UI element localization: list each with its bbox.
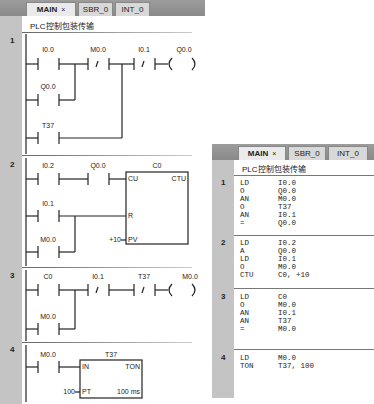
ladder-diagram: [0, 0, 210, 404]
contact-label: Q0.0: [40, 83, 55, 90]
stl-operands-4: M0.0 T37, 100: [278, 354, 314, 370]
pin-in: IN: [82, 363, 89, 370]
pv-value: +10: [109, 236, 121, 243]
contact-label: I0.1: [42, 200, 54, 207]
coil-label: M0.0: [182, 273, 198, 280]
network-separator: [234, 349, 374, 350]
network-number-2: 2: [221, 238, 225, 247]
stl-ops-1: LD O AN O AN =: [240, 179, 249, 227]
stl-operands-3: C0 M0.0 I0.1 T37 M0.0: [278, 293, 296, 333]
program-comment: PLC控制包装传输: [242, 163, 306, 174]
pin-pv: PV: [128, 236, 137, 243]
ladder-editor: MAIN× SBR_0 INT_0 PLC控制包装传输 1 2 3 4: [0, 0, 210, 404]
network-1-rungs: [26, 58, 195, 144]
network-separator: [234, 235, 374, 236]
contact-label: M0.0: [40, 313, 56, 320]
coil-label: Q0.0: [176, 46, 191, 53]
tab-main-label: MAIN: [248, 149, 268, 158]
line-gutter: [212, 160, 234, 398]
contact-label: M0.0: [40, 236, 56, 243]
contact-label: T37: [138, 273, 150, 280]
tab-sbr0[interactable]: SBR_0: [288, 146, 326, 160]
box-type: CTU: [172, 175, 186, 182]
stl-operands-2: I0.2 Q0.0 I0.1 M0.0 C0, +10: [278, 239, 310, 279]
contact-label: M0.0: [40, 351, 56, 358]
stl-editor: MAIN× SBR_0 INT_0 PLC控制包装传输 1 LD O AN O …: [212, 144, 374, 400]
contact-label: Q0.0: [90, 162, 105, 169]
contact-label: I0.1: [92, 273, 104, 280]
pin-cu: CU: [128, 175, 138, 182]
network-number-3: 3: [221, 292, 225, 301]
network-3-rungs: [26, 284, 195, 335]
comment-separator: [234, 175, 374, 176]
stl-ops-4: LD TON: [240, 354, 254, 370]
network-number-4: 4: [221, 353, 225, 362]
timer-resolution: 100 ms: [117, 388, 140, 395]
box-type: TON: [125, 363, 140, 370]
stl-operands-1: I0.0 Q0.0 M0.0 T37 I0.1 Q0.0: [278, 179, 296, 227]
pt-value: 100: [63, 388, 75, 395]
network-separator: [234, 288, 374, 289]
contact-label: I0.2: [42, 162, 54, 169]
stl-ops-3: LD O AN AN =: [240, 293, 249, 333]
tab-int0[interactable]: INT_0: [328, 146, 368, 160]
timer-name: T37: [105, 351, 117, 358]
contact-label: C0: [44, 273, 53, 280]
counter-name: C0: [153, 162, 162, 169]
stl-ops-2: LD A LD O CTU: [240, 239, 254, 279]
contact-label: T37: [42, 122, 54, 129]
contact-label: I0.1: [138, 46, 150, 53]
contact-label: M0.0: [90, 46, 106, 53]
close-icon[interactable]: ×: [272, 150, 276, 157]
pin-r: R: [128, 212, 133, 219]
network-number-1: 1: [221, 178, 225, 187]
contact-label: I0.0: [42, 46, 54, 53]
pin-pt: PT: [82, 388, 91, 395]
network-2-rungs: [26, 172, 188, 258]
tab-main[interactable]: MAIN×: [238, 146, 286, 160]
